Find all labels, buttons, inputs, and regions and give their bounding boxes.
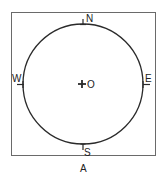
- label-south: S: [84, 147, 91, 158]
- label-center: O: [87, 79, 95, 90]
- label-north: N: [86, 13, 93, 24]
- label-east: E: [145, 73, 152, 84]
- compass-diagram: N S W E O A: [0, 0, 168, 177]
- caption: A: [80, 163, 87, 174]
- label-west: W: [12, 73, 22, 84]
- center-cross-icon: [78, 80, 86, 88]
